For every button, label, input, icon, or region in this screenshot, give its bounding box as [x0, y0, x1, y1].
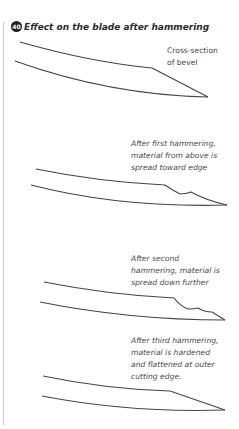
caption-line: cutting edge. — [131, 371, 219, 383]
caption-line: material from above is — [131, 150, 217, 162]
caption-line: After second — [131, 253, 220, 265]
caption-line: spread down further — [131, 277, 220, 289]
caption-stage-2: After first hammering, material from abo… — [131, 138, 217, 174]
caption-line: of bevel — [167, 57, 218, 69]
caption-stage-3: After second hammering, material is spre… — [131, 253, 220, 289]
caption-line: material is hardened — [131, 347, 219, 359]
caption-line: After first hammering, — [131, 138, 217, 150]
caption-line: spread toward edge — [131, 162, 217, 174]
caption-line: Cross-section — [167, 45, 218, 57]
caption-line: hammering, material is — [131, 265, 220, 277]
caption-stage-4: After third hammering, material is harde… — [131, 335, 219, 383]
caption-line: and flattened at outer — [131, 359, 219, 371]
blade-stage-2 — [31, 169, 227, 205]
caption-line: After third hammering, — [131, 335, 219, 347]
caption-stage-1: Cross-section of bevel — [167, 45, 218, 69]
